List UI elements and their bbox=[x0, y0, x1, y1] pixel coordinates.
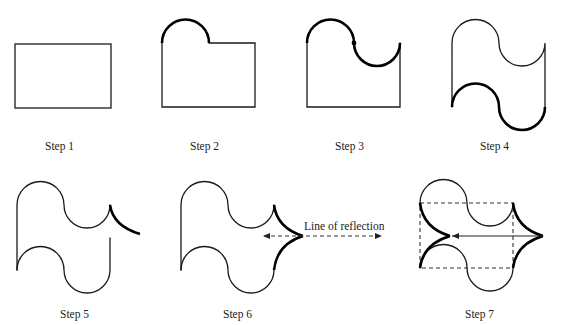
step-5-label: Step 5 bbox=[60, 308, 89, 321]
step-6-lower-edge bbox=[181, 247, 274, 294]
step-7-figure: Step 7 bbox=[420, 180, 543, 322]
step-2-outline bbox=[162, 43, 255, 107]
step-3-rotated-arc bbox=[354, 43, 400, 66]
step-4-label: Step 4 bbox=[480, 140, 509, 153]
step-4-top-edge bbox=[452, 19, 545, 107]
step-4-figure: Step 4 bbox=[452, 19, 545, 153]
step-2-cut-arc bbox=[162, 19, 209, 43]
step-7-right-lower-cusp bbox=[513, 236, 543, 268]
step-5-outline bbox=[17, 182, 110, 271]
step-6-figure: Line of reflection Step 6 bbox=[181, 182, 385, 322]
step-4-translated-edge bbox=[452, 83, 545, 130]
step-3-outline bbox=[307, 43, 400, 107]
line-of-reflection-label: Line of reflection bbox=[304, 220, 385, 232]
step-7-left-upper-cusp bbox=[420, 203, 450, 236]
step-3-label: Step 3 bbox=[335, 140, 364, 153]
step-6-upper-cusp bbox=[274, 205, 303, 236]
step-6-label: Step 6 bbox=[223, 308, 252, 321]
initial-rectangle bbox=[15, 44, 111, 108]
step-2-label: Step 2 bbox=[190, 140, 219, 153]
step-6-outline bbox=[181, 182, 274, 271]
step-7-left-lower-cusp bbox=[420, 236, 450, 268]
step-6-reflected-cusp bbox=[274, 236, 303, 270]
step-1-label: Step 1 bbox=[45, 140, 74, 153]
step-2-figure: Step 2 bbox=[162, 19, 255, 153]
step-5-figure: Step 5 bbox=[17, 182, 140, 322]
step-3-upper-arc bbox=[307, 19, 354, 43]
step-3-figure: Step 3 bbox=[307, 19, 400, 153]
step-7-label: Step 7 bbox=[465, 308, 494, 321]
rotation-point bbox=[352, 41, 357, 46]
step-7-right-upper-cusp bbox=[513, 203, 543, 236]
step-5-new-cusp-arc bbox=[110, 205, 140, 234]
step-1-figure: Step 1 bbox=[15, 44, 111, 153]
step-5-lower-edge bbox=[17, 238, 110, 293]
tessellation-steps-diagram: Step 1 Step 2 Step 3 Step 4 Step 5 Line … bbox=[0, 0, 562, 325]
